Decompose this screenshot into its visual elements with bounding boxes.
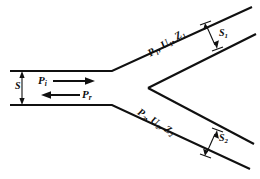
branch2-dimension-line [207,134,215,152]
incident-wave-arrowhead [85,77,95,85]
reflected-wave-label: Pr [82,89,92,100]
branch2-area-subscript: 2 [225,137,228,144]
branch1-area-label: S1 [219,28,228,38]
branch1-area-subscript: 1 [225,32,228,39]
upper-outer-wall [10,7,252,71]
branch2-area-symbol: S [219,132,225,143]
reflected-wave-arrowhead [41,91,51,99]
incident-wave-label: Pi [38,75,47,86]
inlet-area-label: S [15,81,21,91]
branch2-area-label: S2 [219,133,228,143]
lower-inner-wall [148,88,254,144]
branch1-area-symbol: S [219,27,225,38]
branch1-dimension-line [207,27,215,45]
incident-wave-subscript: i [45,79,47,88]
reflected-wave-subscript: r [89,93,92,102]
incident-wave-symbol: P [38,74,45,86]
figure-canvas: S Pi Pr P₁, U₁, Z₁ P₂, U₂, Z₂ S1 S2 [0,0,260,179]
reflected-wave-symbol: P [82,88,89,100]
